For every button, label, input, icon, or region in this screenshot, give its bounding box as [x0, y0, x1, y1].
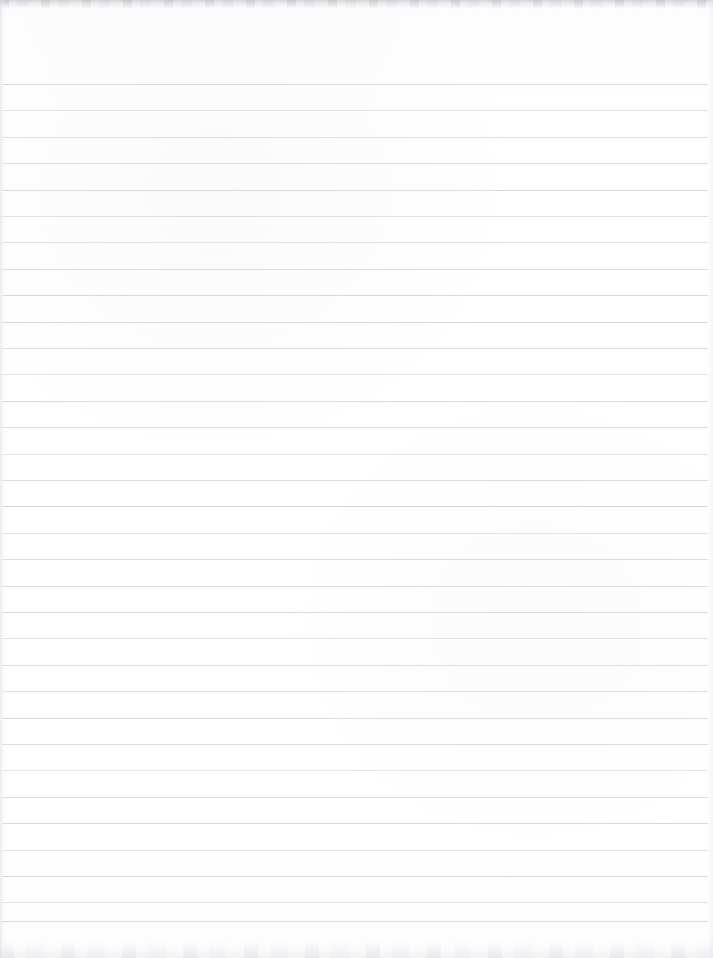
rule-line [2, 348, 708, 349]
rule-line [2, 401, 708, 402]
rule-line [2, 295, 708, 296]
rule-line [2, 110, 708, 111]
rule-line [2, 163, 708, 164]
rule-line [2, 374, 708, 375]
rule-line [2, 850, 708, 851]
rule-line [2, 84, 708, 85]
scanned-page [0, 0, 713, 958]
rule-line [2, 190, 708, 191]
rule-line [2, 216, 708, 217]
rule-line [2, 691, 708, 692]
rule-line [2, 744, 708, 745]
rule-line [2, 480, 708, 481]
rule-line [2, 242, 708, 243]
rule-line [2, 797, 708, 798]
rule-line [2, 921, 708, 922]
rule-line [2, 506, 708, 507]
rule-line [2, 902, 708, 903]
rule-line [2, 586, 708, 587]
rule-line [2, 823, 708, 824]
rule-line [2, 638, 708, 639]
rule-line [2, 718, 708, 719]
rule-line [2, 137, 708, 138]
rule-line [2, 454, 708, 455]
rule-line [2, 612, 708, 613]
rule-line [2, 269, 708, 270]
rule-line [2, 876, 708, 877]
rule-line [2, 533, 708, 534]
rule-line [2, 322, 708, 323]
rule-line [2, 559, 708, 560]
rule-line [2, 770, 708, 771]
rule-line [2, 427, 708, 428]
rule-line [2, 665, 708, 666]
ruled-lines-group [0, 0, 713, 958]
